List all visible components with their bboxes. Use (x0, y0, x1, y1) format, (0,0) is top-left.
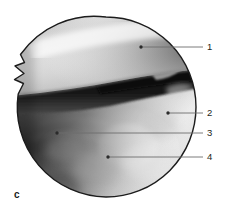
callout-label-4: 4 (207, 152, 212, 162)
panel-letter: c (14, 189, 20, 200)
callout-label-1: 1 (207, 42, 212, 52)
arthroscopic-image (0, 0, 226, 214)
figure-panel: 1 2 3 4 c (0, 0, 226, 214)
callout-label-3: 3 (207, 128, 212, 138)
callout-label-2: 2 (207, 108, 212, 118)
